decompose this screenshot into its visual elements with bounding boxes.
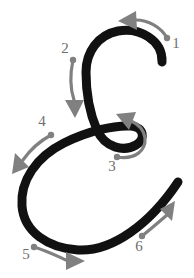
arrow-shaft-2: [71, 60, 74, 100]
step-number-2: 2: [61, 40, 69, 56]
figure-canvas: 1 2 3 4 5: [0, 0, 194, 278]
arrow-head-2: [65, 100, 84, 118]
arrow-start-dot-2: [70, 57, 76, 63]
arrow-start-dot-5: [31, 244, 37, 250]
stroke-direction-figure: 1 2 3 4 5: [0, 0, 194, 278]
step-number-3: 3: [108, 158, 116, 174]
arrow-start-dot-4: [48, 132, 54, 138]
arrow-head-5: [66, 252, 85, 270]
step-number-5: 5: [22, 246, 30, 262]
step-number-6: 6: [135, 238, 143, 254]
step-arrow-2: 2: [61, 40, 84, 118]
arrow-start-dot-1: [164, 35, 170, 41]
step-number-4: 4: [38, 113, 46, 129]
step-number-1: 1: [172, 35, 180, 51]
